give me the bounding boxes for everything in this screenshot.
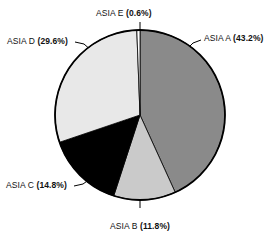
pie-label-asia-a: ASIA A (43.2%) xyxy=(204,33,264,43)
pie-label-asia-d-name: ASIA D xyxy=(7,36,37,46)
pie-label-asia-b: ASIA B (11.8%) xyxy=(110,221,170,231)
pie-label-asia-e: ASIA E (0.6%) xyxy=(96,8,152,18)
pie-label-asia-a-percent: (43.2%) xyxy=(233,33,263,43)
pie-label-asia-e-name: ASIA E xyxy=(96,8,126,18)
pie-label-asia-a-name: ASIA A xyxy=(204,33,233,43)
pie-chart: ASIA E (0.6%) ASIA A (43.2%) ASIA D (29.… xyxy=(0,0,277,243)
pie-label-asia-d: ASIA D (29.6%) xyxy=(7,36,68,46)
pie-label-asia-b-name: ASIA B xyxy=(110,221,140,231)
pie-label-asia-d-percent: (29.6%) xyxy=(37,36,67,46)
pie-label-asia-c: ASIA C (14.8%) xyxy=(6,180,67,190)
pie-label-asia-c-percent: (14.8%) xyxy=(36,180,66,190)
pie-label-asia-b-percent: (11.8%) xyxy=(140,221,170,231)
pie-label-asia-c-name: ASIA C xyxy=(6,180,36,190)
pie-label-asia-e-percent: (0.6%) xyxy=(126,8,152,18)
